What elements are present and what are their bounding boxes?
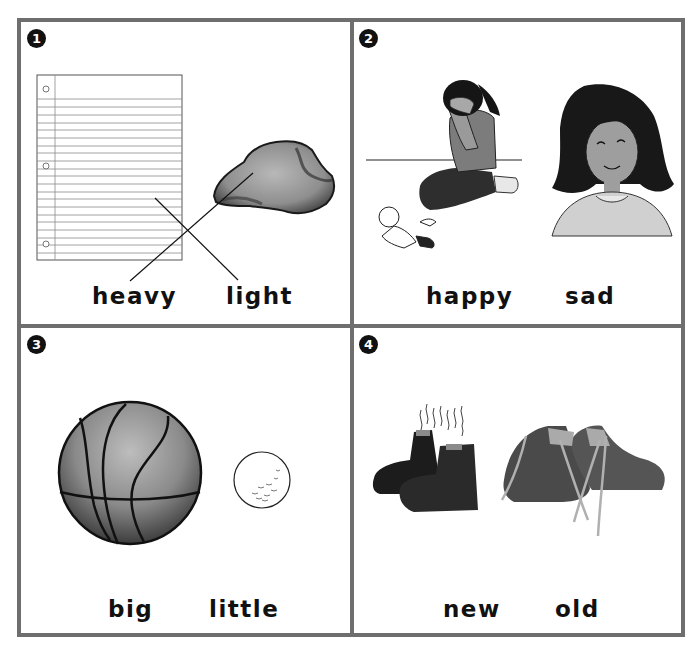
word-new: new <box>443 598 501 621</box>
smelly-boots-icon <box>373 404 478 512</box>
panel-4-art <box>0 0 699 647</box>
word-old: old <box>555 598 600 621</box>
sneakers-icon <box>502 426 665 536</box>
